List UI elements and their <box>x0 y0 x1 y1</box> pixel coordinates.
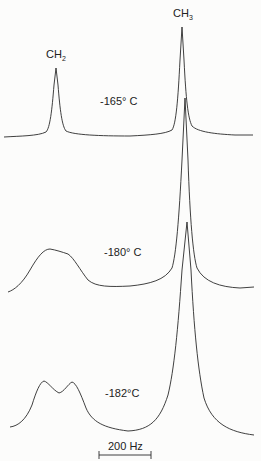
trace-165 <box>4 27 253 137</box>
ch2-label: CH2 <box>46 49 66 62</box>
scale-label: 200 Hz <box>108 441 143 452</box>
temp-label-180: -180° C <box>104 247 141 258</box>
temp-label-182: -182°C <box>105 388 139 399</box>
ch3-label: CH3 <box>173 8 193 21</box>
temp-label-165: -165° C <box>100 96 137 107</box>
trace-180 <box>8 98 254 292</box>
nmr-spectra-figure: CH2 CH3 -165° C -180° C -182°C 200 Hz <box>0 0 261 461</box>
